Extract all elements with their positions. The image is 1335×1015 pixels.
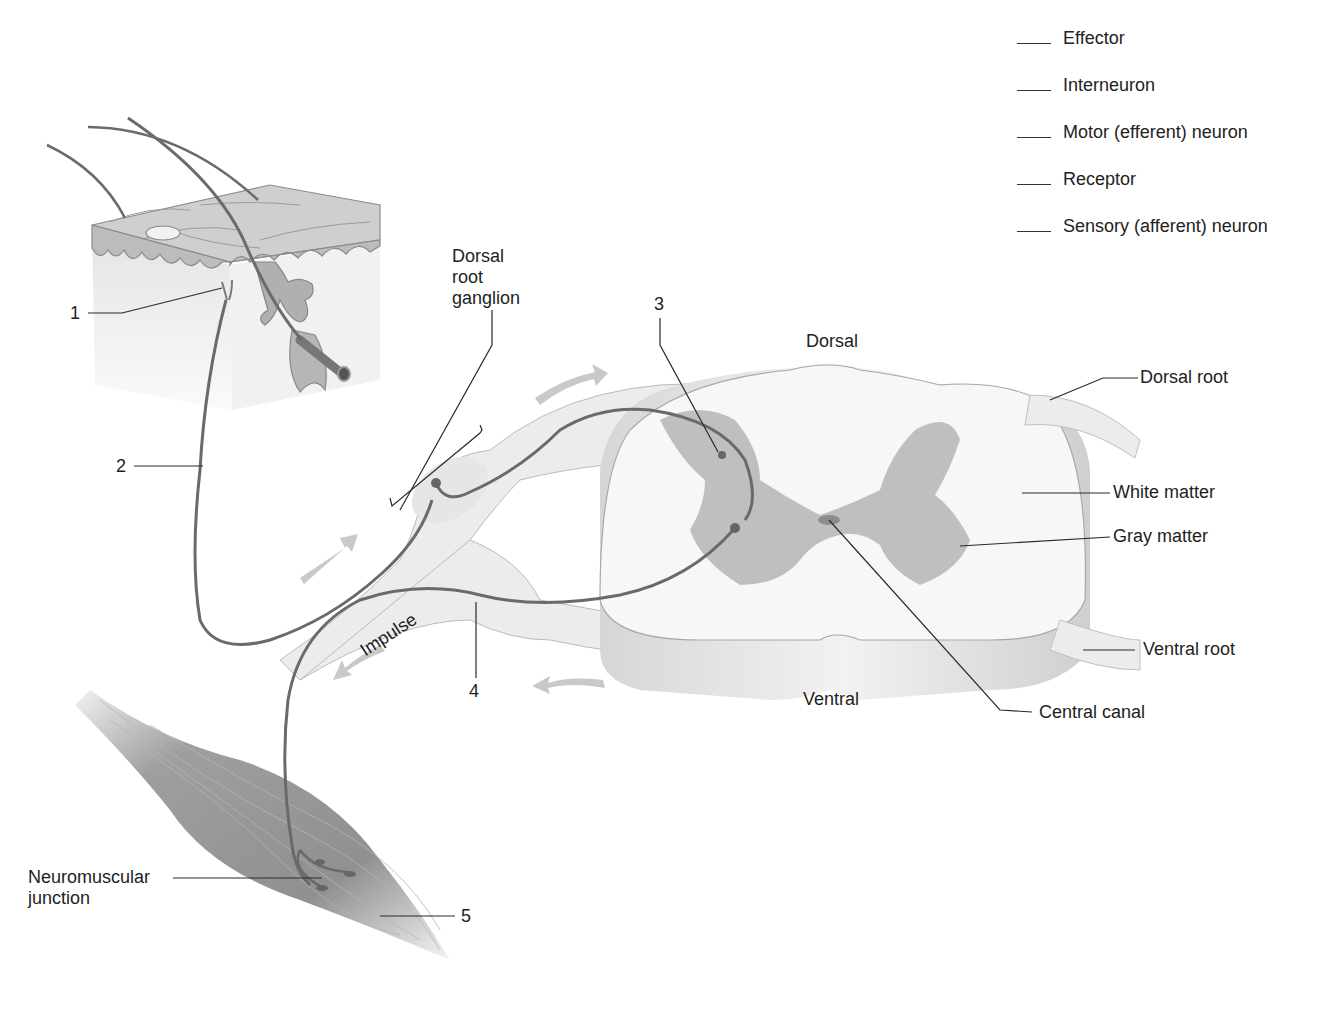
answer-key-list: Effector Interneuron Motor (efferent) ne… [1017, 28, 1268, 263]
spinal-cord-cross-section [600, 364, 1140, 700]
arrow-up-left [300, 534, 358, 584]
label-line: ganglion [452, 288, 520, 309]
callout-1: 1 [70, 303, 80, 323]
answer-blank[interactable] [1017, 78, 1051, 91]
answer-blank[interactable] [1017, 219, 1051, 232]
key-label: Interneuron [1063, 75, 1155, 96]
callout-4: 4 [469, 681, 479, 701]
label-ventral: Ventral [803, 689, 859, 710]
key-item-receptor[interactable]: Receptor [1017, 169, 1268, 216]
callout-3: 3 [654, 294, 664, 314]
callout-2: 2 [116, 456, 126, 476]
answer-blank[interactable] [1017, 31, 1051, 44]
key-item-motor-neuron[interactable]: Motor (efferent) neuron [1017, 122, 1268, 169]
label-gray-matter: Gray matter [1113, 526, 1208, 547]
key-label: Effector [1063, 28, 1125, 49]
key-item-effector[interactable]: Effector [1017, 28, 1268, 75]
skin-block [47, 118, 380, 410]
label-line: Neuromuscular [28, 867, 150, 888]
label-white-matter: White matter [1113, 482, 1215, 503]
label-line: junction [28, 888, 150, 909]
key-label: Sensory (afferent) neuron [1063, 216, 1268, 237]
callout-5: 5 [461, 906, 471, 926]
label-line: root [452, 267, 520, 288]
answer-blank[interactable] [1017, 172, 1051, 185]
label-neuromuscular-junction: Neuromuscular junction [28, 867, 150, 909]
label-dorsal-root: Dorsal root [1140, 367, 1228, 388]
label-ventral-root: Ventral root [1143, 639, 1235, 660]
arrow-bottom [532, 676, 605, 694]
key-item-interneuron[interactable]: Interneuron [1017, 75, 1268, 122]
answer-blank[interactable] [1017, 125, 1051, 138]
motor-neuron-cell-body [730, 523, 740, 533]
key-label: Receptor [1063, 169, 1136, 190]
label-dorsal: Dorsal [806, 331, 858, 352]
synapse-interneuron-top [718, 451, 726, 459]
key-label: Motor (efferent) neuron [1063, 122, 1248, 143]
label-central-canal: Central canal [1039, 702, 1145, 723]
label-dorsal-root-ganglion: Dorsal root ganglion [452, 246, 520, 309]
reflex-arc-diagram: Effector Interneuron Motor (efferent) ne… [0, 0, 1335, 1015]
sweat-pore [146, 226, 180, 240]
key-item-sensory-neuron[interactable]: Sensory (afferent) neuron [1017, 216, 1268, 263]
ganglion-cell-body [431, 478, 441, 488]
label-line: Dorsal [452, 246, 520, 267]
skeletal-muscle [75, 690, 450, 960]
